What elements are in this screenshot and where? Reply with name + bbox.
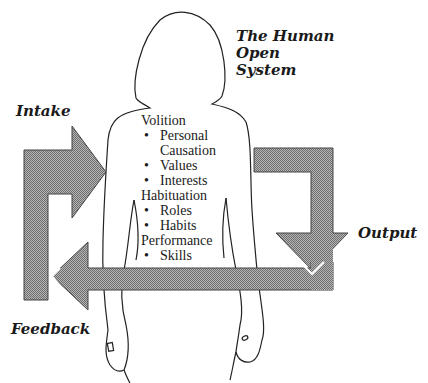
list-item-continuation: Causation — [141, 143, 216, 158]
list-item: • Habits — [141, 218, 216, 233]
subsystem-list: Volition • Personal Causation • Values •… — [141, 113, 216, 263]
list-item-text: Roles — [160, 203, 192, 218]
bullet-icon: • — [144, 173, 160, 188]
list-item: • Values — [141, 158, 216, 173]
subsystem-heading-volition: Volition — [141, 113, 216, 128]
human-open-system-diagram: The Human Open System Intake Output Feed… — [0, 0, 428, 383]
list-item: • Personal — [141, 128, 216, 143]
subsystem-heading-habituation: Habituation — [141, 188, 216, 203]
bullet-icon: • — [144, 158, 160, 173]
list-item-text: Skills — [160, 248, 192, 263]
list-item-text: Values — [160, 158, 197, 173]
intake-label: Intake — [16, 102, 71, 120]
subsystem-heading-performance: Performance — [141, 233, 216, 248]
bullet-icon: • — [144, 218, 160, 233]
list-item-text: Personal — [160, 128, 208, 143]
bullet-icon: • — [144, 248, 160, 263]
list-item: • Roles — [141, 203, 216, 218]
list-item-text: Interests — [160, 173, 207, 188]
title-line: The Human — [236, 28, 334, 45]
bullet-icon: • — [144, 203, 160, 218]
diagram-title: The Human Open System — [236, 28, 334, 79]
list-item: • Skills — [141, 248, 216, 263]
bullet-icon: • — [144, 128, 160, 143]
output-label: Output — [358, 224, 417, 242]
output-arrow — [254, 148, 348, 270]
title-line: System — [236, 62, 334, 79]
title-line: Open — [236, 45, 334, 62]
list-item-text: Habits — [160, 218, 197, 233]
feedback-label: Feedback — [11, 320, 90, 338]
list-item: • Interests — [141, 173, 216, 188]
